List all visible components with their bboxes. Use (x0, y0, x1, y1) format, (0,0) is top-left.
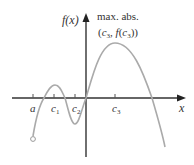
tick-label-a: a (30, 102, 36, 114)
function-curve (33, 43, 165, 147)
open-endpoint-marker (31, 137, 36, 142)
function-graph: f(x) max. abs. (c3, f(c3)) a c1 c2 c3 x (0, 0, 194, 165)
tick-label-c3: c3 (112, 102, 121, 116)
tick-label-c2: c2 (72, 102, 81, 116)
tick-label-c1: c1 (51, 102, 60, 116)
annotation-point: (c3, f(c3)) (98, 26, 138, 40)
x-axis-label: x (178, 101, 185, 115)
annotation-max-abs: max. abs. (97, 10, 139, 22)
y-axis-label: f(x) (62, 13, 79, 27)
y-axis-arrow-icon (83, 13, 90, 22)
